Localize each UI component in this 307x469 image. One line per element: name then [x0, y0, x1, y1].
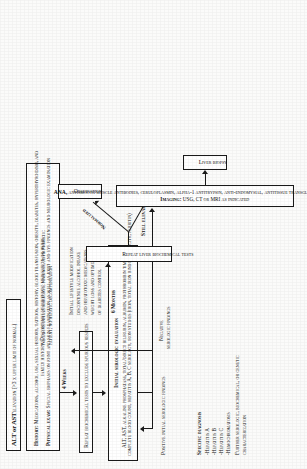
edge-serologic-spine: [138, 392, 152, 393]
flowchart-canvas: ALT or ASTelevation (>3 x upper limit of…: [0, 0, 307, 469]
arrowhead-negative-to-workup: [149, 208, 155, 212]
specific-diagnosis-item-2: -Hepatitis C: [218, 428, 224, 455]
lifestyle-line-2: discontinue alcohol intake: [75, 252, 81, 315]
arrowhead-up-to-negative-initial: [71, 348, 75, 354]
specific-diagnosis-item-3: -Hemochromatosis: [225, 412, 231, 455]
edge-repeat-liver-out: [128, 232, 129, 246]
imaging-line: USG, CT or MRI as indicated: [183, 196, 250, 202]
serologic-line-2: complete blood count, hepatitis A, B, C …: [127, 250, 133, 456]
specific-diagnosis-footer: Further serologic, biochemical, or genet…: [234, 335, 247, 455]
label-negative-initial-line1: Negative initial serologic findings, asy…: [40, 230, 46, 345]
further-workup-ana: ANA,: [54, 189, 68, 195]
node-further-workup[interactable]: ANA, antismooth muscle antibodies, cerul…: [116, 185, 294, 207]
node-liver-biopsy[interactable]: Liver biopsy: [183, 155, 227, 170]
further-workup-line-1: antismooth muscle antibodies, ceruloplas…: [67, 189, 307, 195]
label-negative-serologic-findings-line1: Negative: [158, 320, 164, 341]
arrowhead-workup-to-biopsy: [202, 170, 208, 174]
edge-label-four-weeks: 4 Weeks: [61, 369, 67, 389]
edge-lifestyle-to-repeat-liver: [108, 266, 109, 351]
specific-diagnosis-item-0: -Hepatitis A: [204, 428, 210, 455]
arrowhead-repeat-to-serologic: [102, 390, 106, 396]
history-label: History:: [33, 425, 39, 446]
arrowhead-history-to-repeat: [73, 390, 77, 396]
node-alt-ast-elevation[interactable]: ALT or ASTelevation (>3 x upper limit of…: [6, 299, 21, 451]
label-negative-initial-line2: patient, no hepatic decompensation: [47, 266, 53, 345]
edge-label-six-months: 6 Months: [110, 290, 116, 313]
label-negative-serologic-findings-line2: serologic findings: [165, 307, 171, 349]
specific-diagnosis-footer-text: Further serologic, biochemical, or genet…: [234, 355, 247, 455]
edge-split-bar: [152, 393, 153, 429]
edge-up-to-negative-initial: [75, 350, 152, 351]
edge-to-positive-findings: [144, 428, 152, 429]
node-initial-serologic-evaluation[interactable]: Initial serologic evaluation ALT, AST, a…: [108, 245, 138, 461]
node-alt-ast-title: ALT or AST: [10, 412, 17, 446]
edge-negative-main-line: [152, 211, 153, 393]
physical-exam-label: Physical exam:: [45, 409, 51, 446]
node-alt-ast-subtitle: elevation (>3 x upper limit of normal): [11, 324, 17, 413]
edge-history-to-repeat: [60, 392, 74, 393]
liver-biopsy-label: Liver biopsy: [199, 159, 212, 165]
repeat-liver-label: Repeat liver biochemical tests: [122, 251, 136, 257]
lifestyle-line-1: Initial lifestyle modification: [68, 247, 74, 315]
specific-diagnosis-title: Specific diagnosis: [196, 412, 202, 455]
node-repeat-liver-biochemical-tests[interactable]: Repeat liver biochemical tests: [86, 246, 172, 262]
specific-diagnosis-item-1: -Hepatitis B: [211, 428, 217, 455]
repeat-biochemical-label: Repeat biochemical tests to exclude spur…: [83, 336, 89, 448]
diagram-rotation-wrapper: ALT or ASTelevation (>3 x upper limit of…: [0, 0, 307, 469]
imaging-label: Imaging:: [161, 196, 182, 202]
arrowhead-to-positive-findings: [140, 426, 144, 432]
lifestyle-line-5: of diabetes control: [96, 269, 102, 315]
label-positive-initial-serologic-findings: Positive initial serologic findings: [160, 377, 166, 455]
arrowhead-lifestyle-to-repeat-liver: [105, 263, 111, 267]
edge-workup-to-biopsy: [205, 173, 206, 185]
serologic-title: Initial serologic evaluation: [113, 250, 119, 456]
